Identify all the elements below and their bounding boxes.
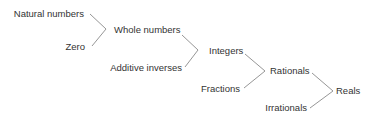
node-natural-numbers: Natural numbers [14,8,84,19]
node-integers: Integers [209,45,243,56]
join-whole-numbers [90,14,106,46]
node-irrationals: Irrationals [265,102,307,113]
node-whole-numbers: Whole numbers [114,24,181,35]
node-zero: Zero [65,41,85,52]
node-fractions: Fractions [201,83,240,94]
node-rationals: Rationals [270,65,310,76]
join-rationals [244,54,265,88]
join-integers [182,35,198,67]
node-reals: Reals [336,85,360,96]
node-additive-inverses: Additive inverses [110,62,182,73]
join-reals [310,73,333,108]
